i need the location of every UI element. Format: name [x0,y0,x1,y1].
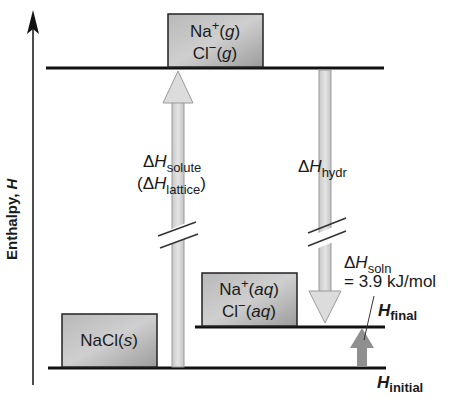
arrow-up-icon [163,71,193,103]
solute-arrow [158,71,201,367]
nacl-solid-label: NaCl(s) [80,331,138,350]
arrow-down-icon [309,291,341,323]
aqueous-ions-box: Na+(aq) Cl−(aq) [202,273,297,326]
solid-nacl-box: NaCl(s) [62,314,157,367]
arrow-up-small-icon [350,328,374,348]
enthalpy-diagram: Enthalpy, H Na+(g) Cl−(g) [0,0,462,402]
h-final-label: Hfinal [378,301,417,323]
solution-value: = 3.9 kJ/mol [344,272,436,291]
axis-label: Enthalpy, H [3,177,20,260]
lattice-label: (ΔHlattice) [137,174,206,197]
gas-ions-box: Na+(g) Cl−(g) [168,14,263,67]
solution-arrow [350,296,374,367]
leader-line [364,296,374,340]
aq-na-label: Na+(aq) [219,276,279,299]
aq-cl-label: Cl−(aq) [222,298,276,321]
enthalpy-axis: Enthalpy, H [3,10,39,385]
h-initial-label: Hinitial [377,373,423,395]
